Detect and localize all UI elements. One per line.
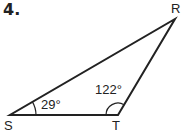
diagram-canvas: 4. 29° 122° S T R — [0, 0, 184, 135]
angle-label-s: 29° — [41, 97, 61, 112]
triangle-srt — [10, 19, 175, 115]
triangle-figure — [0, 0, 184, 135]
vertex-label-s: S — [4, 118, 13, 133]
vertex-label-t: T — [112, 118, 120, 133]
vertex-label-r: R — [171, 1, 180, 16]
angle-label-t: 122° — [95, 82, 122, 97]
angle-arc-s — [32, 102, 36, 115]
